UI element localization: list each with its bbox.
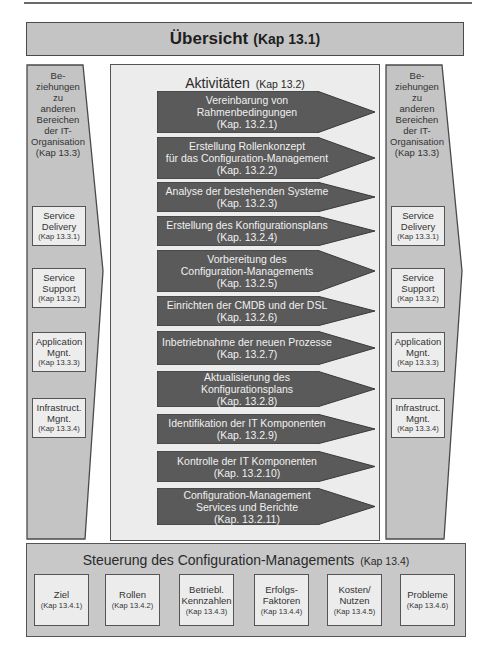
steering-item-erfolgsfaktoren: Erfolgs- Faktoren (Kap 13.4.4) bbox=[254, 574, 309, 626]
activity-item: Vorbereitung des Configuration-Managemen… bbox=[157, 250, 375, 292]
steering-item-kennzahlen: Betriebl. Kennzahlen (Kap 13.4.3) bbox=[179, 574, 234, 626]
steering-item-probleme: Probleme (Kap 13.4.6) bbox=[400, 574, 455, 626]
activity-item: Inbetriebnahme der neuen Prozesse (Kap. … bbox=[157, 331, 375, 365]
activity-item: Erstellung des Konfigurationsplans (Kap.… bbox=[157, 216, 375, 246]
activity-item: Configuration-Management Services und Be… bbox=[157, 488, 375, 525]
relation-service-delivery: Service Delivery (Kap 13.3.1) bbox=[391, 206, 445, 246]
activity-item: Kontrolle der IT Komponenten (Kap. 13.2.… bbox=[157, 451, 375, 482]
steering-item-rollen: Rollen (Kap 13.4.2) bbox=[105, 574, 160, 626]
overview-title: Übersicht bbox=[170, 29, 248, 49]
activity-item: Aktualisierung des Konfigurationsplans (… bbox=[157, 371, 375, 407]
activity-item: Einrichten der CMDB und der DSL (Kap. 13… bbox=[157, 296, 375, 326]
relation-service-support: Service Support (Kap 13.3.2) bbox=[391, 268, 445, 308]
activities-title: Aktivitäten (Kap 13.2) bbox=[111, 75, 379, 91]
relations-panel-left: Be- ziehungen zu anderen Bereichen der I… bbox=[26, 64, 106, 540]
relations-heading: Be- ziehungen zu anderen Bereichen der I… bbox=[389, 70, 445, 158]
relation-application-mgnt: Application Mgnt. (Kap 13.3.3) bbox=[391, 332, 445, 372]
top-rule bbox=[24, 2, 472, 4]
relations-heading: Be- ziehungen zu anderen Bereichen der I… bbox=[30, 70, 86, 158]
overview-kap: (Kap 13.1) bbox=[253, 31, 320, 47]
activity-item: Erstellung Rollenkonzept für das Configu… bbox=[157, 137, 375, 179]
overview-banner: Übersicht (Kap 13.1) bbox=[26, 22, 464, 56]
steering-item-kosten-nutzen: Kosten/ Nutzen (Kap 13.4.5) bbox=[327, 574, 382, 626]
relation-application-mgnt: Application Mgnt. (Kap 13.3.3) bbox=[32, 332, 86, 372]
steering-title: Steuerung des Configuration-Managements … bbox=[27, 552, 465, 568]
relation-infrastruct-mgnt: Infrastruct. Mgnt. (Kap 13.3.4) bbox=[391, 398, 445, 438]
activity-item: Analyse der bestehenden Systeme (Kap. 13… bbox=[157, 182, 375, 212]
activities-panel: Aktivitäten (Kap 13.2) Vereinbarung von … bbox=[110, 64, 380, 541]
steering-panel: Steuerung des Configuration-Managements … bbox=[26, 543, 466, 637]
relation-service-delivery: Service Delivery (Kap 13.3.1) bbox=[32, 206, 86, 246]
activity-item: Identifikation der IT Komponenten (Kap. … bbox=[157, 414, 375, 444]
activity-item: Vereinbarung von Rahmenbedingungen (Kap.… bbox=[157, 91, 375, 133]
relations-panel-right: Be- ziehungen zu anderen Bereichen der I… bbox=[385, 64, 465, 540]
relation-service-support: Service Support (Kap 13.3.2) bbox=[32, 268, 86, 308]
steering-item-ziel: Ziel (Kap 13.4.1) bbox=[34, 574, 89, 626]
relation-infrastruct-mgnt: Infrastruct. Mgnt. (Kap 13.3.4) bbox=[32, 398, 86, 438]
